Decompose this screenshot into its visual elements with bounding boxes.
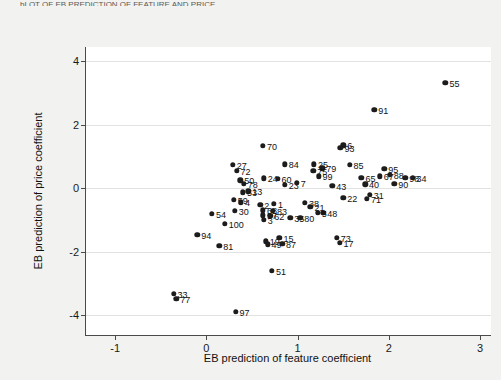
x-axis-label: EB prediction of feature coefficient bbox=[85, 352, 490, 364]
y-tick-mark bbox=[81, 315, 86, 316]
y-gridline bbox=[86, 125, 491, 126]
data-point-label: 85 bbox=[354, 161, 364, 170]
data-point bbox=[260, 143, 265, 148]
cropped-caption-text: bLOT OF EB PREDICTION OF FEATURE AND PRI… bbox=[20, 0, 350, 6]
data-point-label: 5 bbox=[322, 210, 327, 219]
data-point-label: 48 bbox=[327, 210, 337, 219]
data-point bbox=[233, 309, 238, 314]
y-tick-mark bbox=[81, 125, 86, 126]
y-tick-mark bbox=[81, 61, 86, 62]
data-point-label: 43 bbox=[336, 182, 346, 191]
data-point bbox=[359, 175, 364, 180]
data-point bbox=[392, 181, 397, 186]
data-point bbox=[282, 182, 287, 187]
data-point-label: 55 bbox=[449, 79, 459, 88]
data-point bbox=[230, 162, 235, 167]
data-point bbox=[302, 200, 307, 205]
y-gridline bbox=[86, 61, 491, 62]
data-point bbox=[261, 217, 266, 222]
data-point-label: 62 bbox=[274, 212, 284, 221]
plot-area: 5591706932772842579759985956788983490406… bbox=[85, 47, 491, 336]
plot-panel: EB prediction of price coefficient 55917… bbox=[22, 18, 480, 340]
x-tick-mark bbox=[480, 335, 481, 340]
data-point bbox=[347, 162, 352, 167]
data-point bbox=[338, 145, 343, 150]
data-point bbox=[382, 166, 387, 171]
data-point bbox=[232, 208, 237, 213]
data-point bbox=[308, 204, 313, 209]
y-axis-label-text: EB prediction of price coefficient bbox=[32, 113, 44, 270]
data-point-label: 70 bbox=[267, 143, 277, 152]
data-point bbox=[234, 168, 239, 173]
data-point bbox=[261, 176, 266, 181]
y-tick-mark bbox=[81, 252, 86, 253]
data-point-label: 7 bbox=[301, 179, 306, 188]
y-gridline bbox=[86, 252, 491, 253]
data-point-label: 99 bbox=[323, 173, 333, 182]
data-point bbox=[311, 161, 316, 166]
data-point-label: 77 bbox=[180, 295, 190, 304]
data-point bbox=[364, 196, 369, 201]
data-point bbox=[279, 241, 284, 246]
data-point-label: 65 bbox=[365, 174, 375, 183]
x-tick-mark bbox=[298, 335, 299, 340]
data-point bbox=[216, 243, 221, 248]
data-point bbox=[209, 211, 214, 216]
y-tick-label: 4 bbox=[73, 55, 79, 67]
x-tick-mark bbox=[115, 335, 116, 340]
data-point bbox=[275, 176, 280, 181]
y-tick-label: 2 bbox=[73, 119, 79, 131]
data-point-label: 100 bbox=[229, 220, 244, 229]
data-point bbox=[372, 107, 377, 112]
data-point-label: 87 bbox=[286, 240, 296, 249]
data-point bbox=[316, 174, 321, 179]
data-point-label: 30 bbox=[239, 207, 249, 216]
data-point-label: 90 bbox=[398, 180, 408, 189]
y-tick-mark bbox=[81, 188, 86, 189]
plot-inner: 5591706932772842579759985956788983490406… bbox=[86, 47, 491, 335]
data-point-label: 13 bbox=[252, 188, 262, 197]
data-point bbox=[315, 210, 320, 215]
data-point-label: 80 bbox=[304, 214, 314, 223]
data-point bbox=[377, 174, 382, 179]
data-point bbox=[282, 161, 287, 166]
x-tick-mark bbox=[206, 335, 207, 340]
data-point-label: 17 bbox=[344, 239, 354, 248]
data-point bbox=[195, 232, 200, 237]
data-point-label: 3 bbox=[268, 216, 273, 225]
data-point-label: 54 bbox=[216, 210, 226, 219]
data-point bbox=[310, 168, 315, 173]
y-tick-label: -2 bbox=[69, 246, 79, 258]
data-point-label: 34 bbox=[417, 174, 427, 183]
y-axis-label: EB prediction of price coefficient bbox=[30, 47, 46, 335]
data-point-label: 94 bbox=[201, 231, 211, 240]
data-point bbox=[337, 240, 342, 245]
data-point-label: 51 bbox=[276, 267, 286, 276]
x-tick-mark bbox=[389, 335, 390, 340]
data-point-label: 22 bbox=[347, 194, 357, 203]
y-gridline bbox=[86, 315, 491, 316]
scatter-plot-figure: bLOT OF EB PREDICTION OF FEATURE AND PRI… bbox=[0, 0, 501, 380]
x-axis-label-text: EB prediction of feature coefficient bbox=[204, 352, 371, 364]
data-point-label: 81 bbox=[223, 243, 233, 252]
data-point bbox=[269, 268, 274, 273]
data-point bbox=[288, 215, 293, 220]
data-point bbox=[443, 80, 448, 85]
y-tick-label: 0 bbox=[73, 182, 79, 194]
data-point bbox=[231, 197, 236, 202]
data-point bbox=[341, 195, 346, 200]
data-point bbox=[174, 296, 179, 301]
data-point-label: 97 bbox=[240, 308, 250, 317]
data-point-label: 84 bbox=[289, 161, 299, 170]
data-point-label: 71 bbox=[371, 195, 381, 204]
y-tick-label: -4 bbox=[69, 309, 79, 321]
data-point-label: 91 bbox=[378, 106, 388, 115]
data-point bbox=[222, 221, 227, 226]
data-point-label: 93 bbox=[344, 144, 354, 153]
